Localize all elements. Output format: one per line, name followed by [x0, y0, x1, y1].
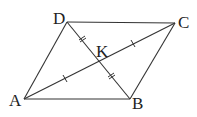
vertex-label-c: C: [178, 13, 189, 32]
vertex-label-b: B: [132, 94, 143, 113]
vertex-label-a: A: [9, 91, 22, 110]
point-label-k: K: [96, 42, 109, 61]
vertex-label-d: D: [53, 9, 65, 28]
side-da: [24, 22, 67, 99]
side-cd: [67, 22, 175, 23]
parallelogram-diagram: D C A B K: [0, 0, 197, 117]
